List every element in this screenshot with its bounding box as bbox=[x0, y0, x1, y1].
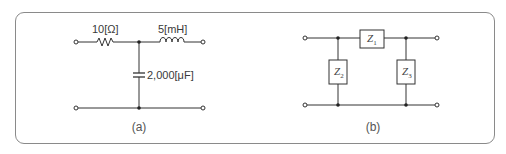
junction-b-4 bbox=[404, 103, 408, 107]
junction-b-2 bbox=[404, 36, 408, 40]
resistor-label: 10[Ω] bbox=[92, 23, 119, 35]
terminal-b-2 bbox=[435, 36, 439, 40]
terminal-a-4 bbox=[201, 106, 205, 110]
junction-a-bottom bbox=[137, 106, 141, 110]
junction-b-3 bbox=[336, 103, 340, 107]
junction-a-top bbox=[137, 40, 141, 44]
terminal-a-3 bbox=[74, 106, 78, 110]
caption-a: (a) bbox=[132, 120, 147, 134]
terminal-a-2 bbox=[201, 40, 205, 44]
caption-b: (b) bbox=[366, 120, 381, 134]
inductor-label: 5[mH] bbox=[158, 23, 187, 35]
circuit-diagrams: 10[Ω] 5[mH] 2,000[μF] (a) Z1 Z2 Z3 (b) bbox=[0, 0, 506, 154]
terminal-a-1 bbox=[74, 40, 78, 44]
resistor-icon bbox=[97, 38, 113, 46]
terminal-b-3 bbox=[303, 103, 307, 107]
terminal-b-4 bbox=[435, 103, 439, 107]
terminal-b-1 bbox=[303, 36, 307, 40]
inductor-icon bbox=[160, 38, 184, 43]
capacitor-label: 2,000[μF] bbox=[147, 69, 194, 81]
junction-b-1 bbox=[336, 36, 340, 40]
